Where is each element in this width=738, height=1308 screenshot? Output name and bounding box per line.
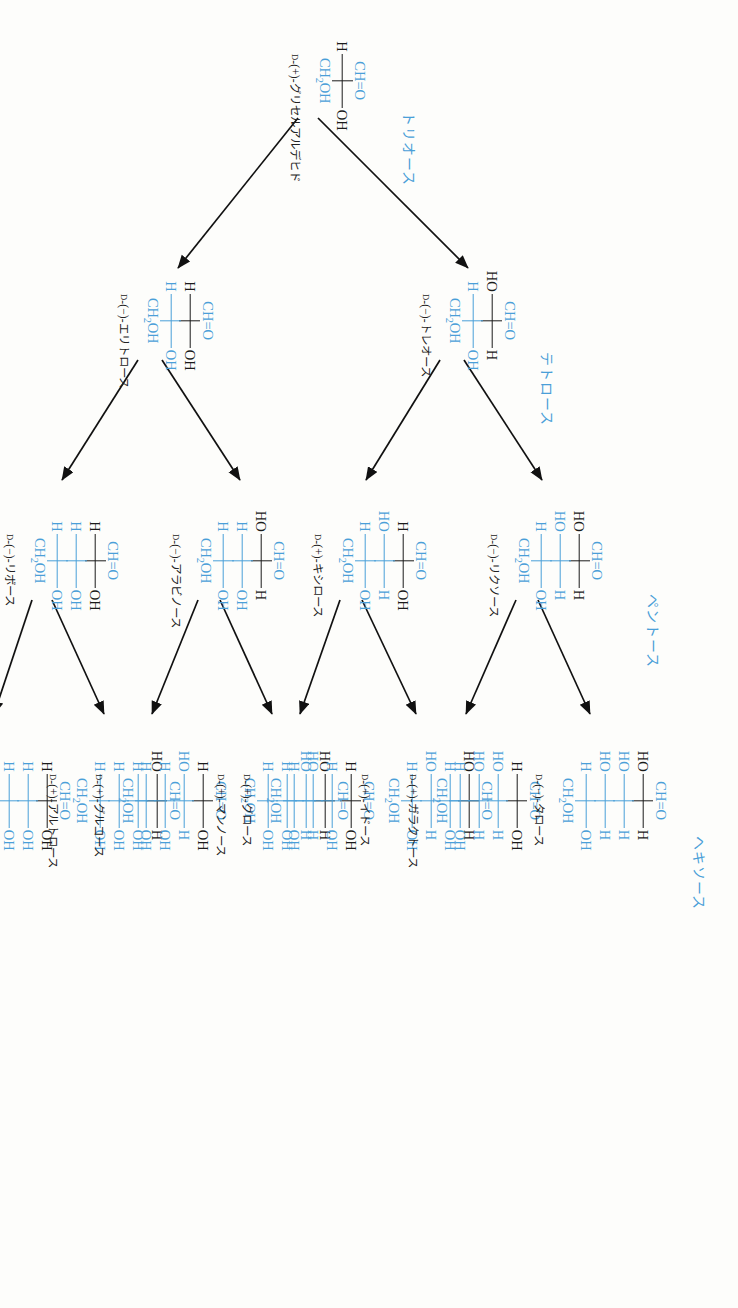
stereocenter-row: HOH: [181, 298, 200, 343]
vertical-bond: [393, 560, 414, 561]
substituent-left: H: [325, 761, 340, 771]
stereocenter-row: HOH: [162, 298, 181, 343]
vertical-bond: [0, 800, 20, 801]
substituent-right: OH: [335, 110, 350, 131]
stereocenter-row: HOH: [304, 778, 323, 823]
substituent-right: OH: [261, 830, 276, 851]
substituent-left: H: [261, 761, 276, 771]
stereocenter-row: HOH: [570, 538, 589, 583]
vertical-bond: [284, 800, 305, 801]
stereocenter-row: HOH: [596, 778, 615, 823]
stereocenter-row: HOH: [551, 538, 570, 583]
substituent-left: H: [344, 761, 359, 771]
vertical-bond: [85, 560, 106, 561]
molecule-xylose: CH=OHOHHOHHOHCH2OH: [337, 538, 429, 583]
substituent-right: H: [636, 830, 651, 840]
vertical-bond: [469, 800, 490, 801]
substituent-right: OH: [579, 830, 594, 851]
fischer-backbone: HOHHOHHOH: [532, 538, 589, 583]
substituent-left: H: [93, 761, 108, 771]
substituent-left: H: [21, 761, 36, 771]
terminal-ch2oh-label: CH2OH: [71, 778, 89, 823]
substituent-right: H: [254, 590, 269, 600]
molecule-name-idose: D-(+)-イドース: [358, 774, 374, 846]
substituent-right: H: [617, 830, 632, 840]
stereocenter-row: HOH: [252, 538, 271, 583]
stereocenter-row: HOH: [67, 538, 86, 583]
vertical-bond: [66, 560, 87, 561]
substituent-left: H: [510, 761, 525, 771]
terminal-ch2oh-label: CH2OH: [117, 778, 135, 823]
molecule-threose: CH=OHOHHOHCH2OH: [444, 298, 517, 343]
terminal-ch2oh-label: CH2OH: [142, 298, 160, 343]
carbonyl-label: CH=O: [654, 778, 669, 823]
molecule-glyceraldehyde: CH=OHOHCH2OH: [314, 58, 368, 103]
vertical-bond: [180, 320, 201, 321]
carbonyl-label: CH=O: [503, 298, 518, 343]
vertical-bond: [576, 800, 597, 801]
terminal-ch2oh-label: CH2OH: [383, 778, 401, 823]
substituent-left: H: [196, 761, 211, 771]
arrow-group: [0, 118, 590, 714]
substituent-left: HO: [177, 751, 192, 772]
substituent-right: OH: [534, 590, 549, 611]
substituent-left: HO: [572, 511, 587, 532]
vertical-bond: [161, 320, 182, 321]
substituent-right: OH: [50, 590, 65, 611]
substituent-right: OH: [139, 830, 154, 851]
stereocenter-row: HOH: [175, 778, 194, 823]
stereocenter-row: HOH: [489, 778, 508, 823]
substituent-right: OH: [112, 830, 127, 851]
substituent-left: H: [139, 761, 154, 771]
fischer-backbone: HOHHOHHOH: [48, 538, 105, 583]
stereocenter-row: HOH: [48, 538, 67, 583]
vertical-bond: [482, 320, 503, 321]
vertical-bond: [0, 800, 1, 801]
vertical-bond: [569, 560, 590, 561]
vertical-bond: [614, 800, 635, 801]
molecule-name-glucose: D-(+)-グルコース: [92, 774, 108, 857]
terminal-ch2oh-label: CH2OH: [557, 778, 575, 823]
substituent-left: H: [216, 521, 231, 531]
substituent-left: H: [466, 281, 481, 291]
stereocenter-row: HOH: [356, 538, 375, 583]
substituent-left: HO: [472, 751, 487, 772]
substituent-right: H: [598, 830, 613, 840]
molecule-name-threose: D-(−)-トレオース: [419, 294, 435, 377]
substituent-right: H: [177, 830, 192, 840]
group-label-hexose: ヘキソース: [690, 836, 710, 910]
stereocenter-row: HOH: [634, 778, 653, 823]
vertical-bond: [450, 800, 471, 801]
molecule-talose: CH=OHOHHOHHOHHOHCH2OH: [557, 778, 668, 823]
substituent-right: OH: [69, 590, 84, 611]
substituent-left: HO: [491, 751, 506, 772]
vertical-bond: [531, 560, 552, 561]
fischer-backbone: HOHHOH: [464, 298, 502, 343]
stereocenter-row: HOH: [508, 778, 527, 823]
substituent-right: H: [424, 830, 439, 840]
stereocenter-row: HOH: [86, 538, 105, 583]
carbonyl-label: CH=O: [590, 538, 605, 583]
substituent-right: OH: [158, 830, 173, 851]
substituent-left: H: [534, 521, 549, 531]
terminal-ch2oh-label: CH2OH: [444, 298, 462, 343]
carbonyl-label: CH=O: [353, 58, 368, 103]
stereocenter-row: HOH: [137, 778, 156, 823]
vertical-bond: [550, 560, 571, 561]
substituent-right: H: [553, 590, 568, 600]
molecule-name-glyceraldehyde: D-(+)-グリセルアルデヒド: [289, 54, 305, 183]
substituent-left: H: [2, 761, 17, 771]
group-label-triose: トリオース: [400, 112, 420, 186]
substituent-right: OH: [183, 350, 198, 371]
carbonyl-label: CH=O: [106, 538, 121, 583]
terminal-ch2oh-label: CH2OH: [337, 538, 355, 583]
vertical-bond: [18, 800, 39, 801]
molecule-name-ribose: D-(−)-リボース: [4, 534, 20, 606]
substituent-left: HO: [636, 751, 651, 772]
molecule-name-talose: D-(−)-タロース: [532, 774, 548, 846]
group-label-pentose: ペントース: [644, 594, 664, 668]
substituent-right: H: [472, 830, 487, 840]
terminal-ch2oh-label: CH2OH: [265, 778, 283, 823]
fischer-backbone: HOHHOHHOH: [356, 538, 413, 583]
fischer-backbone: HOHHOHHOHHOH: [285, 778, 361, 823]
